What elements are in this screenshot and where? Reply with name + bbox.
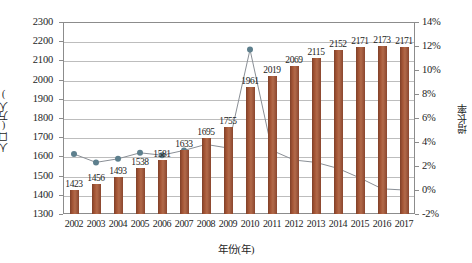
y-axis-tick-mark xyxy=(59,41,63,42)
bar xyxy=(400,47,409,214)
y-axis-tick-mark xyxy=(59,60,63,61)
bar-value-label: 2171 xyxy=(387,36,421,46)
secondary-y-axis-tick-mark xyxy=(415,190,419,191)
secondary-y-axis-tick-label: 8% xyxy=(422,89,456,99)
y-axis-tick-label: 1600 xyxy=(13,151,53,161)
secondary-y-axis-tick-label: 6% xyxy=(422,113,456,123)
y-axis-tick-mark xyxy=(59,176,63,177)
secondary-y-axis-tick-mark xyxy=(415,166,419,167)
bar xyxy=(268,76,277,214)
secondary-y-axis-tick-label: 2% xyxy=(422,161,456,171)
secondary-y-axis-tick-mark xyxy=(415,118,419,119)
y-axis-title: 人口(万人) xyxy=(0,90,12,152)
bar-fill xyxy=(114,177,123,214)
bar xyxy=(378,46,387,214)
bar-fill xyxy=(136,168,145,214)
secondary-y-axis-tick-label: 14% xyxy=(422,17,456,27)
secondary-y-axis-tick-label: 12% xyxy=(422,41,456,51)
bar-value-label: 1633 xyxy=(167,139,201,149)
secondary-y-axis-tick-label: -2% xyxy=(422,209,456,219)
y-axis-tick-mark xyxy=(59,156,63,157)
bar xyxy=(92,184,101,214)
y-axis-tick-mark xyxy=(59,80,63,81)
y-axis-tick-label: 2300 xyxy=(13,17,53,27)
y-axis-tick-label: 2100 xyxy=(13,55,53,65)
bar xyxy=(334,50,343,214)
bar xyxy=(70,190,79,214)
y-axis-tick-label: 2200 xyxy=(13,36,53,46)
y-axis-tick-label: 1800 xyxy=(13,113,53,123)
y-axis-tick-mark xyxy=(59,214,63,215)
secondary-y-axis-tick-mark xyxy=(415,142,419,143)
bar xyxy=(114,177,123,214)
bar-fill xyxy=(180,150,189,214)
secondary-y-axis-tick-mark xyxy=(415,70,419,71)
bar-fill xyxy=(202,138,211,214)
bar-value-label: 1961 xyxy=(233,76,267,86)
bar-value-label: 1695 xyxy=(189,127,223,137)
bar-fill xyxy=(290,66,299,214)
y-axis-tick-label: 1900 xyxy=(13,94,53,104)
population-growth-chart: 人口(万人) 增长率 年份(年) 23002200210020001900180… xyxy=(0,0,472,263)
bar-fill xyxy=(268,76,277,214)
y-axis-tick-mark xyxy=(59,99,63,100)
secondary-y-axis-tick-label: 0% xyxy=(422,185,456,195)
bar-fill xyxy=(356,47,365,214)
secondary-y-axis-tick-label: 10% xyxy=(422,65,456,75)
y-axis-tick-label: 1300 xyxy=(13,209,53,219)
secondary-y-axis-tick-mark xyxy=(415,22,419,23)
x-axis-title: 年份(年) xyxy=(0,241,472,256)
bar-fill xyxy=(246,87,255,214)
secondary-y-axis-tick-mark xyxy=(415,214,419,215)
secondary-y-axis-tick-label: 4% xyxy=(422,137,456,147)
bar-value-label: 1581 xyxy=(145,149,179,159)
bar xyxy=(246,87,255,214)
y-axis-tick-mark xyxy=(59,22,63,23)
bar xyxy=(224,127,233,214)
bar xyxy=(158,160,167,214)
bar xyxy=(136,168,145,214)
bar xyxy=(180,150,189,214)
bar xyxy=(356,47,365,214)
bar-value-label: 1755 xyxy=(211,116,245,126)
y-axis-tick-mark xyxy=(59,195,63,196)
bar-fill xyxy=(334,50,343,214)
bar xyxy=(202,138,211,214)
secondary-y-axis-tick-mark xyxy=(415,46,419,47)
x-axis-tick-label: 2017 xyxy=(389,218,419,229)
bar-fill xyxy=(92,184,101,214)
y-axis-tick-mark xyxy=(59,118,63,119)
secondary-y-axis-tick-mark xyxy=(415,94,419,95)
bar xyxy=(290,66,299,214)
bar-value-label: 2069 xyxy=(277,55,311,65)
bar-fill xyxy=(224,127,233,214)
bar-fill xyxy=(70,190,79,214)
y-axis-tick-label: 1700 xyxy=(13,132,53,142)
bar-fill xyxy=(312,58,321,214)
secondary-y-axis-title: 增长率 xyxy=(457,104,471,134)
bar-value-label: 2019 xyxy=(255,65,289,75)
bar-fill xyxy=(378,46,387,214)
y-axis-tick-label: 2000 xyxy=(13,75,53,85)
bar-fill xyxy=(158,160,167,214)
bar-fill xyxy=(400,47,409,214)
y-axis-tick-label: 1400 xyxy=(13,190,53,200)
bar-value-label: 1493 xyxy=(101,166,135,176)
bar xyxy=(312,58,321,214)
y-axis-tick-label: 1500 xyxy=(13,171,53,181)
y-axis-tick-mark xyxy=(59,137,63,138)
